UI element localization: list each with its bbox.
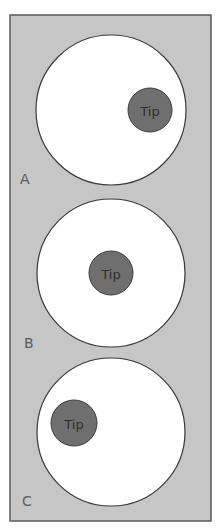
panel-label-c: C [22, 494, 32, 508]
diagram-canvas [0, 0, 223, 530]
panel-label-b: B [24, 336, 34, 350]
diagram-a [36, 35, 186, 185]
tip-label-c: Tip [64, 418, 83, 431]
tip-label-a: Tip [140, 105, 159, 118]
tip-label-b: Tip [101, 268, 120, 281]
panel-label-a: A [20, 172, 30, 186]
tip-position-diagram: Tip Tip Tip A B C [0, 0, 223, 530]
diagram-c [37, 358, 185, 506]
